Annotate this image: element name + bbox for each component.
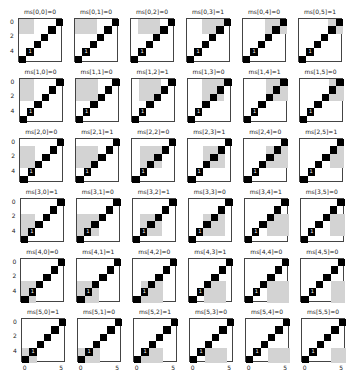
subplot-4-2: ms[4,2]=01 — [132, 258, 176, 302]
diagonal-cell — [245, 236, 252, 243]
highlight-cell — [211, 228, 218, 235]
highlight-cell — [76, 146, 83, 153]
cell-label: 1 — [308, 228, 315, 235]
subplot-title: ms[1,5]=0 — [293, 68, 349, 75]
highlight-cell — [272, 19, 279, 26]
diagonal-cell — [146, 41, 153, 48]
diagonal-cell — [112, 79, 119, 86]
y-tick-label: 2 — [10, 32, 14, 39]
highlight-cell — [339, 348, 346, 355]
highlight-cell — [203, 214, 210, 221]
cell-label: 1 — [29, 348, 36, 355]
diagonal-cell — [218, 206, 225, 213]
diagonal-cell: 1 — [308, 228, 315, 235]
diagonal-cell — [22, 356, 29, 363]
diagonal-cell — [163, 326, 170, 333]
y-tick-label: 0 — [10, 18, 14, 25]
cell-label: 1 — [140, 228, 147, 235]
highlight-cell — [140, 214, 147, 221]
highlight-cell — [91, 154, 98, 161]
highlight-cell — [274, 214, 281, 221]
highlight-cell — [275, 348, 282, 355]
diagonal-cell — [322, 154, 329, 161]
matrix-axes: 1 — [130, 18, 174, 62]
highlight-cell — [216, 19, 223, 26]
y-tick-label: 4 — [11, 167, 15, 174]
diagonal-cell — [59, 319, 66, 326]
diagonal-cell: 1 — [306, 48, 313, 55]
highlight-cell — [268, 348, 275, 355]
matrix-axes: 1 — [19, 138, 63, 182]
highlight-cell — [90, 94, 97, 101]
y-tick-label: 0 — [11, 138, 15, 145]
diagonal-cell — [280, 79, 287, 86]
diagonal-cell — [92, 281, 99, 288]
diagonal-cell — [261, 341, 268, 348]
subplot-title: ms[0,5]=1 — [292, 8, 348, 15]
highlight-cell — [138, 26, 145, 33]
highlight-cell — [28, 161, 35, 168]
subplot-3-5: ms[3,5]=01 — [300, 198, 344, 242]
x-tick-label: 0 — [135, 364, 139, 371]
highlight-cell — [141, 281, 148, 288]
highlight-cell — [82, 19, 89, 26]
highlight-cell — [211, 296, 218, 303]
diagonal-cell — [224, 79, 231, 86]
matrix-axes: 1 — [132, 198, 176, 242]
y-tick-label: 2 — [12, 212, 16, 219]
highlight-cell — [267, 288, 274, 295]
highlight-cell — [331, 281, 338, 288]
diagonal-cell — [210, 94, 217, 101]
cell-label: 1 — [253, 288, 260, 295]
highlight-cell — [27, 79, 34, 86]
highlight-cell — [148, 288, 155, 295]
diagonal-cell — [188, 116, 195, 123]
subplot-4-5: ms[4,5]=01 — [300, 258, 344, 302]
highlight-cell — [330, 161, 337, 168]
highlight-cell — [273, 94, 280, 101]
highlight-cell — [75, 26, 82, 33]
highlight-cell — [267, 221, 274, 228]
highlight-cell — [83, 94, 90, 101]
diagonal-cell — [275, 326, 282, 333]
diagonal-cell — [133, 296, 140, 303]
diagonal-cell — [266, 154, 273, 161]
matrix-axes: 1 — [131, 138, 175, 182]
cell-label: 1 — [83, 108, 90, 115]
cell-label: 1 — [196, 228, 203, 235]
diagonal-cell — [42, 94, 49, 101]
cell-label: 1 — [29, 288, 36, 295]
diagonal-cell — [115, 319, 122, 326]
diagonal-cell — [281, 199, 288, 206]
subplot-title: ms[0,0]=0 — [12, 8, 68, 15]
highlight-cell — [203, 154, 210, 161]
diagonal-cell — [78, 356, 85, 363]
highlight-cell — [77, 214, 84, 221]
highlight-cell — [274, 228, 281, 235]
highlight-cell — [21, 281, 28, 288]
highlight-cell — [336, 26, 343, 33]
subplot-title: ms[5,1]=0 — [71, 308, 127, 315]
matrix-axes: 1 — [18, 18, 62, 62]
x-tick-label: 5 — [59, 364, 63, 371]
diagonal-cell — [272, 26, 279, 33]
highlight-cell — [273, 79, 280, 86]
highlight-cell — [28, 154, 35, 161]
diagonal-cell — [328, 26, 335, 33]
matrix-axes: 1 — [76, 198, 120, 242]
diagonal-cell — [202, 101, 209, 108]
highlight-cell — [155, 221, 162, 228]
highlight-cell — [156, 356, 163, 363]
subplot-1-4: ms[1,4]=11 — [243, 78, 287, 122]
diagonal-cell — [339, 319, 346, 326]
subplot-title: ms[0,3]=1 — [180, 8, 236, 15]
diagonal-cell: 1 — [85, 348, 92, 355]
diagonal-cell — [44, 334, 51, 341]
diagonal-cell — [210, 154, 217, 161]
highlight-cell — [267, 228, 274, 235]
diagonal-cell — [155, 274, 162, 281]
matrix-axes: 1 — [188, 258, 232, 302]
subplot-title: ms[4,5]=0 — [294, 248, 350, 255]
subplot-title: ms[1,1]=0 — [69, 68, 125, 75]
matrix-axes: 1 — [244, 258, 288, 302]
